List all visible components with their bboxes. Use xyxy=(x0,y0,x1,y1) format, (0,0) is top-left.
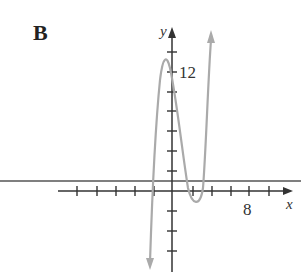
curve-down-arrow-icon xyxy=(146,258,154,270)
x-axis-arrow-icon xyxy=(283,187,293,195)
y-axis-label: y xyxy=(158,23,167,39)
y-tick-label-12: 12 xyxy=(179,63,196,82)
x-axis: 8 x xyxy=(58,186,293,219)
cubic-graph: 8 x 12 y xyxy=(0,0,301,279)
y-axis-arrow-icon xyxy=(168,27,176,38)
x-axis-label: x xyxy=(285,196,293,212)
x-tick-label-8: 8 xyxy=(243,200,252,219)
curve-up-arrow-icon xyxy=(207,30,215,43)
